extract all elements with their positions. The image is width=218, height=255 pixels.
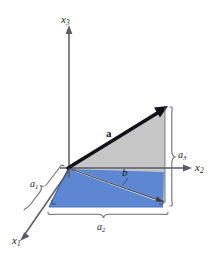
axis-label-x3: x3 <box>61 14 70 27</box>
axis-x2-arrowhead <box>183 165 192 172</box>
component-label-a2: a2 <box>97 222 105 234</box>
axis-label-x1: x1 <box>12 235 21 248</box>
vector-label-b: b <box>122 167 128 178</box>
axis-x1-arrowhead <box>20 232 30 241</box>
vector-label-a: a <box>106 128 112 139</box>
brace-a3 <box>170 107 176 206</box>
component-label-a3: a3 <box>178 150 186 162</box>
axis-label-x2: x2 <box>195 162 204 175</box>
component-label-a1: a1 <box>30 179 38 191</box>
brace-a2 <box>48 212 168 218</box>
